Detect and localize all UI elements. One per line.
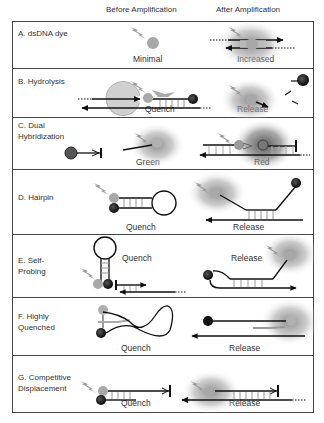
panel-b-after-release <box>220 74 309 122</box>
panel-e-after-scorpion-open <box>203 232 318 288</box>
panel-f-before-coiled-probe <box>96 305 173 338</box>
panel-b-before-hydrolysis-probe <box>78 81 212 116</box>
panel-f-after-extended-probe <box>192 298 320 346</box>
panel-d-before-hairpin <box>93 183 176 215</box>
diagram-artwork <box>0 0 324 423</box>
panel-a-after-dsdna <box>210 20 295 68</box>
panel-c-before-probes <box>65 123 185 167</box>
panel-g-after-displaced <box>181 370 306 414</box>
panel-g-before-displacement <box>80 381 170 405</box>
panel-d-after-open-hairpin <box>187 171 303 220</box>
panel-e-before-scorpion <box>80 237 186 292</box>
panel-c-after-fret <box>200 119 310 171</box>
panel-a-before-dye <box>130 27 159 49</box>
